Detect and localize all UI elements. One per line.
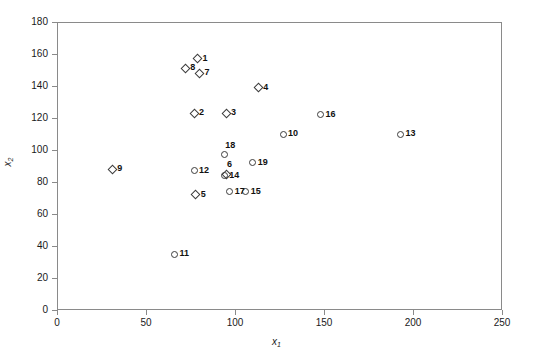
data-point-label: 18 bbox=[225, 140, 235, 150]
data-point-label: 2 bbox=[199, 107, 204, 117]
x-axis-tick-label: 0 bbox=[37, 317, 77, 328]
y-axis-tick-label: 0 bbox=[16, 304, 48, 315]
y-axis-title: x2 bbox=[2, 132, 14, 192]
data-point-label: 8 bbox=[190, 62, 195, 72]
x-axis-tick-label: 250 bbox=[482, 317, 522, 328]
data-point-label: 7 bbox=[204, 67, 209, 77]
data-point-marker bbox=[280, 131, 287, 138]
y-axis-tick bbox=[52, 118, 57, 119]
y-axis-tick bbox=[52, 86, 57, 87]
y-axis-tick-label: 80 bbox=[16, 176, 48, 187]
y-axis-title-text: x bbox=[2, 161, 13, 166]
data-point-label: 1 bbox=[203, 53, 208, 63]
y-axis-title-subscript: 2 bbox=[7, 158, 14, 162]
data-point-label: 5 bbox=[201, 189, 206, 199]
y-axis-tick bbox=[52, 182, 57, 183]
x-axis-tick bbox=[146, 310, 147, 315]
data-point-label: 16 bbox=[325, 109, 335, 119]
data-point-marker bbox=[171, 251, 178, 258]
y-axis-tick-label: 160 bbox=[16, 48, 48, 59]
data-point-label: 6 bbox=[227, 159, 232, 169]
y-axis-tick-label: 120 bbox=[16, 112, 48, 123]
x-axis-tick bbox=[57, 310, 58, 315]
y-axis-tick bbox=[52, 278, 57, 279]
data-point-marker bbox=[221, 172, 228, 179]
y-axis-tick bbox=[52, 22, 57, 23]
y-axis-tick-label: 60 bbox=[16, 208, 48, 219]
x-axis-tick bbox=[324, 310, 325, 315]
data-point-label: 19 bbox=[258, 157, 268, 167]
scatter-plot-figure: 12345678910111213141516171819 0501001502… bbox=[0, 0, 553, 355]
y-axis-tick-label: 40 bbox=[16, 240, 48, 251]
x-axis-tick bbox=[502, 310, 503, 315]
data-point-label: 12 bbox=[199, 165, 209, 175]
y-axis-tick bbox=[52, 310, 57, 311]
x-axis-tick-label: 50 bbox=[126, 317, 166, 328]
x-axis-tick-label: 200 bbox=[393, 317, 433, 328]
y-axis-tick-label: 20 bbox=[16, 272, 48, 283]
y-axis-tick bbox=[52, 54, 57, 55]
data-point-label: 4 bbox=[263, 82, 268, 92]
data-point-label: 11 bbox=[179, 248, 189, 258]
y-axis-tick bbox=[52, 246, 57, 247]
x-axis-tick bbox=[413, 310, 414, 315]
y-axis-tick bbox=[52, 214, 57, 215]
data-point-marker bbox=[397, 131, 404, 138]
x-axis-tick-label: 150 bbox=[304, 317, 344, 328]
data-point-label: 9 bbox=[117, 163, 122, 173]
data-point-label: 15 bbox=[251, 186, 261, 196]
y-axis-tick-label: 140 bbox=[16, 80, 48, 91]
x-axis-title: x1 bbox=[0, 336, 553, 348]
data-point-label: 10 bbox=[288, 128, 298, 138]
x-axis-tick bbox=[235, 310, 236, 315]
data-point-marker bbox=[191, 167, 198, 174]
data-point-label: 3 bbox=[231, 107, 236, 117]
x-axis-title-subscript: 1 bbox=[277, 341, 281, 348]
data-point-label: 13 bbox=[406, 128, 416, 138]
y-axis-tick-label: 180 bbox=[16, 16, 48, 27]
x-axis-tick-label: 100 bbox=[215, 317, 255, 328]
plot-area bbox=[57, 22, 502, 310]
y-axis-tick-label: 100 bbox=[16, 144, 48, 155]
data-point-label: 14 bbox=[229, 170, 239, 180]
y-axis-tick bbox=[52, 150, 57, 151]
data-point-label: 17 bbox=[235, 186, 245, 196]
